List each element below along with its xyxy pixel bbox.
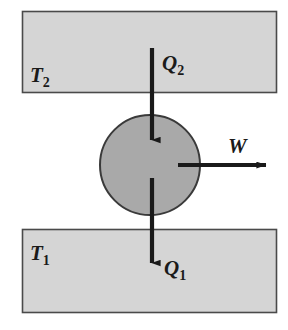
heat-out-symbol: Q	[164, 256, 179, 280]
work-symbol: W	[228, 134, 248, 158]
heat-in-subscript: 2	[177, 63, 184, 78]
cold-reservoir-subscript: 1	[43, 253, 50, 268]
heat-in-symbol: Q	[162, 51, 177, 75]
heat-out-subscript: 1	[179, 268, 186, 283]
cold-reservoir-block	[23, 230, 277, 313]
work-label: W	[228, 134, 248, 158]
hot-reservoir-block	[23, 12, 277, 93]
hot-reservoir-subscript: 2	[43, 75, 50, 90]
heat-engine-diagram: T2 T1 Q2 Q1 W	[0, 0, 288, 330]
